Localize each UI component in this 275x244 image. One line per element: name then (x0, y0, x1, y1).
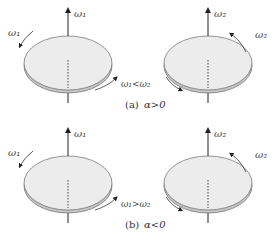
axis-label-left-a: ω₁ (74, 8, 86, 19)
caption-label-b: (b) (125, 219, 139, 230)
panel-b: ω₁ ω₁ ω₂ ω₂ ω₁>ω₂ (b) α<0 (8, 128, 267, 230)
rotation-label-left-a: ω₁ (8, 27, 20, 38)
caption-label-a: (a) (125, 99, 139, 110)
axis-label-right-a: ω₂ (214, 8, 226, 19)
rotation-label-right-a: ω₂ (255, 29, 267, 40)
rotating-discs-diagram: ω₁ ω₁ ω₂ ω₂ ω₁<ω₂ (a) α>0 ω₁ (0, 0, 275, 244)
rotation-label-left-b: ω₁ (8, 147, 20, 158)
disc-right-b: ω₂ ω₂ (164, 128, 267, 223)
axis-label-right-b: ω₂ (214, 128, 226, 139)
panel-a: ω₁ ω₁ ω₂ ω₂ ω₁<ω₂ (a) α>0 (8, 8, 267, 110)
rotation-label-right-b: ω₂ (255, 149, 267, 160)
disc-left-a: ω₁ ω₁ (8, 8, 116, 103)
rotation-arrow-icon (20, 151, 33, 166)
axis-label-left-b: ω₁ (74, 128, 86, 139)
relation-label-b: ω₁>ω₂ (121, 199, 151, 209)
caption-condition-a: α>0 (144, 99, 166, 110)
relation-label-a: ω₁<ω₂ (121, 79, 151, 89)
disc-left-b: ω₁ ω₁ (8, 128, 116, 223)
caption-condition-b: α<0 (144, 219, 166, 230)
rotation-arrow-icon (20, 31, 33, 46)
disc-right-a: ω₂ ω₂ (164, 8, 267, 103)
